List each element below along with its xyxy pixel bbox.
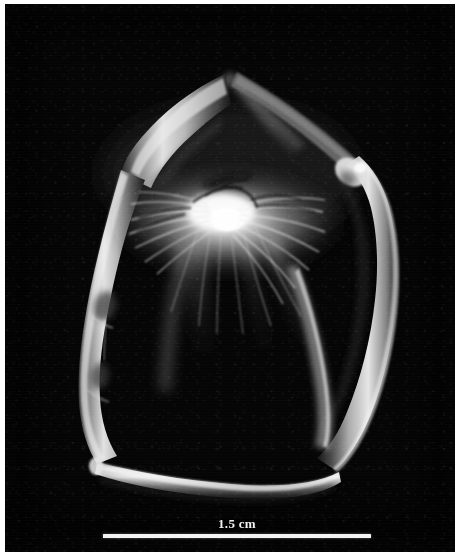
scale-bar-label: 1.5 cm	[103, 516, 371, 531]
figure-root: 1.5 cm	[0, 0, 459, 556]
central-setal-mass	[100, 160, 356, 334]
specimen-image	[5, 4, 455, 552]
scale-bar: 1.5 cm	[103, 516, 371, 538]
micrograph-plate: 1.5 cm	[5, 4, 455, 552]
bottom-limb	[89, 457, 341, 501]
scale-bar-line	[103, 534, 371, 538]
